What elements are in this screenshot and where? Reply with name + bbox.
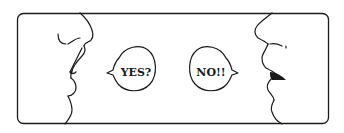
right-speech-bubble: NO!! (190, 47, 238, 91)
illustration-panel: YES? NO!! (0, 0, 344, 133)
left-speech-text: YES? (120, 66, 152, 79)
right-face-profile (255, 13, 286, 124)
right-speech-text: NO!! (196, 66, 225, 79)
left-face-profile (58, 13, 93, 124)
right-mouth-fill (270, 72, 286, 80)
panel-frame (18, 14, 329, 124)
left-speech-bubble: YES? (107, 47, 155, 91)
